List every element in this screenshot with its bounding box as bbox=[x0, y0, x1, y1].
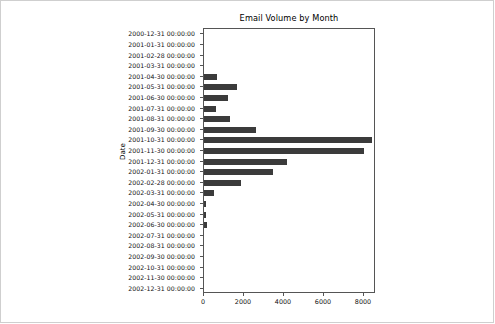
y-tick-label: 2002-07-31 00:00:00 bbox=[128, 231, 195, 238]
y-tick-label: 2001-03-31 00:00:00 bbox=[128, 62, 195, 69]
y-tick-label: 2001-08-31 00:00:00 bbox=[128, 115, 195, 122]
x-axis-tick-labels: 02000400060008000 bbox=[203, 293, 375, 313]
y-tick-label: 2002-08-31 00:00:00 bbox=[128, 242, 195, 249]
bar bbox=[204, 201, 206, 207]
y-tick-label: 2000-12-31 00:00:00 bbox=[128, 30, 195, 37]
x-tick-label: 4000 bbox=[275, 298, 291, 306]
x-tick-label: 2000 bbox=[235, 298, 251, 306]
x-tick-mark bbox=[243, 293, 244, 296]
y-tick-label: 2002-12-31 00:00:00 bbox=[128, 284, 195, 291]
bar bbox=[204, 159, 287, 165]
y-tick-label: 2001-02-28 00:00:00 bbox=[128, 51, 195, 58]
y-tick-label: 2002-04-30 00:00:00 bbox=[128, 199, 195, 206]
y-tick-label: 2001-01-31 00:00:00 bbox=[128, 40, 195, 47]
plot-area bbox=[203, 28, 375, 293]
bar bbox=[204, 116, 230, 122]
y-tick-label: 2002-11-30 00:00:00 bbox=[128, 274, 195, 281]
x-tick-label: 8000 bbox=[355, 298, 371, 306]
bar bbox=[204, 148, 364, 154]
bar bbox=[204, 222, 207, 228]
y-tick-label: 2001-09-30 00:00:00 bbox=[128, 125, 195, 132]
x-tick-label: 0 bbox=[201, 298, 205, 306]
y-tick-label: 2001-05-31 00:00:00 bbox=[128, 83, 195, 90]
y-tick-label: 2001-11-30 00:00:00 bbox=[128, 146, 195, 153]
bar bbox=[204, 74, 217, 80]
x-tick-label: 6000 bbox=[315, 298, 331, 306]
y-tick-label: 2002-10-31 00:00:00 bbox=[128, 263, 195, 270]
bar-series bbox=[204, 29, 374, 292]
bar bbox=[204, 169, 273, 175]
chart-figure: Email Volume by Month Date 2000-12-31 00… bbox=[0, 0, 495, 324]
bar bbox=[204, 180, 241, 186]
bar bbox=[204, 212, 206, 218]
chart-title: Email Volume by Month bbox=[203, 13, 375, 23]
x-tick-mark bbox=[323, 293, 324, 296]
y-tick-label: 2001-12-31 00:00:00 bbox=[128, 157, 195, 164]
y-tick-label: 2001-07-31 00:00:00 bbox=[128, 104, 195, 111]
bar bbox=[204, 127, 256, 133]
y-tick-label: 2002-09-30 00:00:00 bbox=[128, 252, 195, 259]
y-tick-label: 2001-04-30 00:00:00 bbox=[128, 72, 195, 79]
y-axis-tick-labels: 2000-12-31 00:00:002001-01-31 00:00:0020… bbox=[0, 28, 203, 293]
x-tick-mark bbox=[203, 293, 204, 296]
x-tick-mark bbox=[283, 293, 284, 296]
y-tick-label: 2002-06-30 00:00:00 bbox=[128, 221, 195, 228]
bar bbox=[204, 190, 214, 196]
y-tick-label: 2002-05-31 00:00:00 bbox=[128, 210, 195, 217]
bar bbox=[204, 84, 237, 90]
bar bbox=[204, 95, 228, 101]
bar bbox=[204, 137, 372, 143]
y-tick-label: 2001-10-31 00:00:00 bbox=[128, 136, 195, 143]
y-tick-label: 2002-03-31 00:00:00 bbox=[128, 189, 195, 196]
y-tick-label: 2001-06-30 00:00:00 bbox=[128, 93, 195, 100]
y-tick-label: 2002-01-31 00:00:00 bbox=[128, 168, 195, 175]
x-tick-mark bbox=[363, 293, 364, 296]
bar bbox=[204, 106, 216, 112]
y-tick-label: 2002-02-28 00:00:00 bbox=[128, 178, 195, 185]
